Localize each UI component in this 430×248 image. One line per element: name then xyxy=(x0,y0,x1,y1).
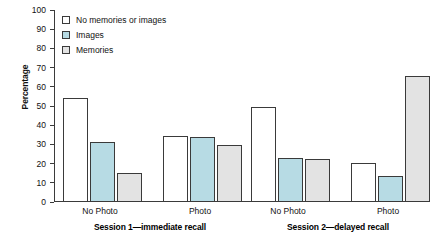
bar-2-2 xyxy=(190,137,215,202)
x-axis-label-1: No Photo xyxy=(60,206,140,216)
bar-4-1 xyxy=(351,163,376,202)
bar-3-2 xyxy=(278,158,303,202)
y-axis-tick-label: 50 xyxy=(37,101,50,111)
y-axis-tick-100: 100 xyxy=(14,5,50,15)
y-axis-tick-80: 80 xyxy=(14,43,50,53)
y-axis-tick-label: 20 xyxy=(37,159,50,169)
bar-2-1 xyxy=(163,136,188,202)
bar-1-1 xyxy=(63,98,88,202)
bar-3-3 xyxy=(305,159,330,202)
bar-3-1 xyxy=(251,107,276,202)
bar-4-2 xyxy=(378,176,403,202)
y-axis-tick-label: 100 xyxy=(32,5,50,15)
bar-1-2 xyxy=(90,142,115,202)
y-axis-tick-label: 70 xyxy=(37,63,50,73)
bar-group-2 xyxy=(163,10,242,202)
bar-2-3 xyxy=(217,145,242,202)
y-axis-tick-50: 50 xyxy=(14,101,50,111)
x-axis-label-3: No Photo xyxy=(248,206,328,216)
x-axis-label-2: Photo xyxy=(160,206,240,216)
legend-item-1: No memories or images xyxy=(62,12,166,27)
session-label-2: Session 2—delayed recall xyxy=(258,222,418,232)
legend-label: No memories or images xyxy=(76,15,166,25)
y-axis-tick-70: 70 xyxy=(14,63,50,73)
chart-legend: No memories or imagesImagesMemories xyxy=(62,12,166,57)
y-axis-tick-label: 0 xyxy=(41,197,50,207)
legend-swatch-icon xyxy=(62,31,70,39)
bar-group-3 xyxy=(251,10,330,202)
y-axis-tick-10: 10 xyxy=(14,178,50,188)
legend-item-2: Images xyxy=(62,27,166,42)
legend-swatch-icon xyxy=(62,46,70,54)
y-axis-tick-label: 60 xyxy=(37,82,50,92)
y-axis-ticks: 1009080706050403020100 xyxy=(14,10,50,202)
y-axis-tick-0: 0 xyxy=(14,197,50,207)
legend-swatch-icon xyxy=(62,16,70,24)
y-axis-tick-label: 80 xyxy=(37,43,50,53)
y-axis-tick-label: 30 xyxy=(37,139,50,149)
y-axis-tick-label: 40 xyxy=(37,120,50,130)
legend-label: Memories xyxy=(76,45,113,55)
x-axis-label-4: Photo xyxy=(348,206,428,216)
legend-item-3: Memories xyxy=(62,42,166,57)
session-label-1: Session 1—immediate recall xyxy=(70,222,230,232)
bar-4-3 xyxy=(405,76,430,202)
y-axis-tick-label: 90 xyxy=(37,24,50,34)
y-axis-tick-90: 90 xyxy=(14,24,50,34)
legend-label: Images xyxy=(76,30,104,40)
y-axis-tick-40: 40 xyxy=(14,120,50,130)
y-axis-tick-60: 60 xyxy=(14,82,50,92)
bar-1-3 xyxy=(117,173,142,202)
y-axis-tick-label: 10 xyxy=(37,178,50,188)
bar-group-4 xyxy=(351,10,430,202)
y-axis-tick-30: 30 xyxy=(14,139,50,149)
y-axis-tick-20: 20 xyxy=(14,159,50,169)
